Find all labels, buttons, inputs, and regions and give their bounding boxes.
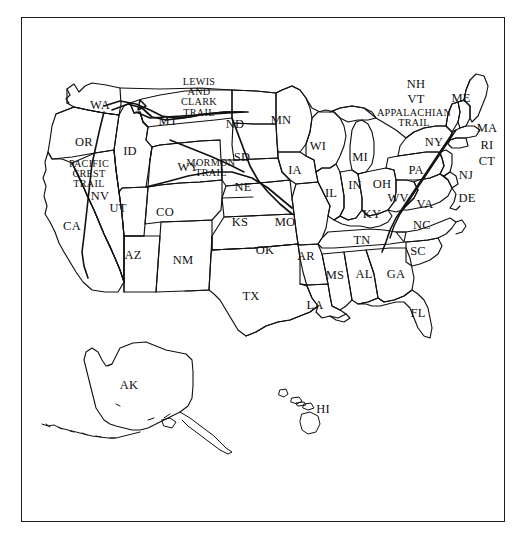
state-label-oh: OH — [373, 178, 391, 191]
trail-label-mormon-trail: MORMONTRAIL — [187, 158, 236, 178]
state-label-pa: PA — [408, 164, 423, 177]
state-label-mi: MI — [352, 151, 368, 164]
state-label-ok: OK — [256, 244, 274, 257]
state-label-ri: RI — [481, 139, 494, 152]
state-label-nc: NC — [413, 219, 431, 232]
state-label-fl: FL — [411, 307, 426, 320]
state-label-or: OR — [75, 136, 93, 149]
state-label-nh: NH — [407, 78, 425, 91]
state-label-de: DE — [458, 192, 475, 205]
trail-label-line: TRAIL — [187, 168, 236, 178]
state-label-va: VA — [417, 198, 434, 211]
state-label-wi: WI — [310, 140, 326, 153]
state-label-in: IN — [348, 179, 362, 192]
state-label-nv: NV — [91, 190, 109, 203]
state-label-ct: CT — [479, 155, 495, 168]
state-label-mt: MT — [158, 115, 177, 128]
state-label-ma: MA — [477, 122, 498, 135]
state-label-ms: MS — [326, 269, 344, 282]
trail-label-appalachian-trail: APPALACHIANTRAIL — [377, 108, 451, 128]
state-label-ia: IA — [288, 164, 302, 177]
state-label-nj: NJ — [459, 169, 473, 182]
state-label-hi: HI — [316, 403, 330, 416]
state-label-az: AZ — [124, 249, 141, 262]
state-label-ny: NY — [425, 136, 443, 149]
state-label-nd: ND — [226, 118, 244, 131]
map-label-layer: WAORIDMTNDSDMNWIMINYMENHVTMARICTNJDEPAOH… — [0, 0, 523, 544]
state-label-sd: SD — [234, 151, 250, 164]
state-label-ar: AR — [297, 250, 315, 263]
state-label-ca: CA — [63, 220, 81, 233]
state-label-tn: TN — [353, 234, 370, 247]
state-label-nm: NM — [173, 254, 194, 267]
trail-label-line: TRAIL — [377, 118, 451, 128]
trail-label-line: TRAIL — [69, 179, 109, 189]
state-label-me: ME — [451, 92, 470, 105]
state-label-la: LA — [306, 299, 323, 312]
state-label-ks: KS — [232, 216, 248, 229]
map-page: WAORIDMTNDSDMNWIMINYMENHVTMARICTNJDEPAOH… — [0, 0, 523, 544]
state-label-ga: GA — [387, 268, 405, 281]
state-label-il: IL — [325, 187, 337, 200]
state-label-ut: UT — [109, 202, 126, 215]
state-label-ky: KY — [363, 208, 381, 221]
state-label-wv: WV — [387, 192, 408, 205]
state-label-vt: VT — [407, 93, 424, 106]
trail-label-pacific-crest-trail: PACIFICCRESTTRAIL — [69, 159, 109, 190]
state-label-tx: TX — [242, 290, 259, 303]
state-label-sc: SC — [410, 245, 426, 258]
trail-label-line: TRAIL — [181, 107, 217, 117]
state-label-mn: MN — [271, 114, 292, 127]
state-label-id: ID — [123, 145, 137, 158]
state-label-mo: MO — [275, 216, 296, 229]
state-label-wa: WA — [90, 99, 110, 112]
state-label-co: CO — [156, 206, 174, 219]
state-label-al: AL — [355, 268, 372, 281]
state-label-ak: AK — [120, 379, 138, 392]
state-label-ne: NE — [234, 181, 251, 194]
trail-label-lewis-and-clark-trail: LEWISANDCLARKTRAIL — [181, 77, 217, 118]
